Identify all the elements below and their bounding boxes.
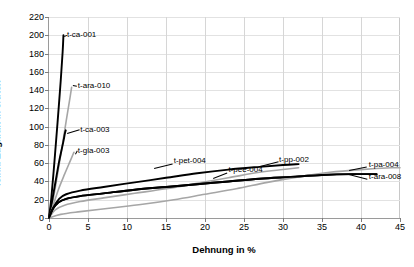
x-tick-label: 5	[85, 222, 90, 232]
label-leader-line	[73, 85, 77, 87]
x-tick-label: 30	[278, 222, 288, 232]
x-tick-label: 0	[46, 222, 51, 232]
y-tick-label: 20	[34, 195, 44, 205]
y-tick-label: 200	[29, 30, 44, 40]
series-label-t-pp-002: t-pp-002	[279, 156, 309, 164]
series-line-t-ca-001	[49, 35, 63, 218]
y-tick-label: 60	[34, 158, 44, 168]
y-tick-label: 220	[29, 12, 44, 22]
y-tick-label: 180	[29, 49, 44, 59]
series-lines	[49, 17, 400, 218]
x-axis-title: Dehnung in %	[48, 244, 400, 255]
series-label-t-pet-004: t-pet-004	[174, 157, 206, 165]
x-tick-label: 20	[200, 222, 210, 232]
x-tick-label: 35	[317, 222, 327, 232]
series-label-t-ca-001: t-ca-001	[67, 31, 96, 39]
y-tick-label: 160	[29, 67, 44, 77]
series-label-t-ca-003: t-ca-003	[80, 126, 109, 134]
y-tick-label: 120	[29, 103, 44, 113]
plot-area: 020406080100120140160180200220 051015202…	[48, 17, 400, 219]
y-axis-title: feinh. Zugkraft in cN/tex	[2, 0, 18, 267]
y-axis-title-text: feinh. Zugkraft in cN/tex	[0, 81, 2, 187]
x-tick-label: 45	[395, 222, 405, 232]
y-tick-label: 100	[29, 122, 44, 132]
y-tick-label: 80	[34, 140, 44, 150]
y-tick-label: 140	[29, 85, 44, 95]
y-tick-label: 0	[39, 213, 44, 223]
x-tick-label: 15	[161, 222, 171, 232]
y-tick-label: 40	[34, 176, 44, 186]
series-label-t-ara-008: t-ara-008	[369, 173, 401, 181]
x-tick-label: 25	[239, 222, 249, 232]
series-label-t-ara-010: t-ara-010	[78, 82, 110, 90]
x-tick-label: 10	[122, 222, 132, 232]
chart-container: feinh. Zugkraft in cN/tex 02040608010012…	[0, 0, 414, 267]
series-label-t-gla-003: t-gla-003	[78, 147, 110, 155]
series-label-t-pa-004: t-pa-004	[369, 161, 399, 169]
x-axis-title-text: Dehnung in %	[192, 244, 255, 255]
series-label-t-pee-004: t-pee-004	[228, 166, 262, 174]
x-tick-label: 40	[356, 222, 366, 232]
